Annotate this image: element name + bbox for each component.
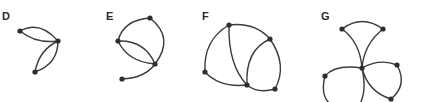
edge [362, 62, 397, 68]
node [244, 82, 249, 87]
panel-e: E [106, 10, 164, 82]
edge [247, 39, 270, 85]
edge [118, 41, 155, 64]
edge [205, 72, 247, 85]
panel-f: F [202, 10, 280, 92]
node [55, 38, 60, 43]
node [226, 22, 231, 27]
edge [35, 41, 58, 72]
edge [122, 64, 155, 79]
edge [118, 18, 150, 41]
panel-g: G [321, 10, 401, 102]
node [32, 69, 37, 74]
edge [325, 67, 362, 76]
panel-label-e: E [106, 10, 113, 22]
node [202, 69, 207, 74]
node [394, 62, 399, 67]
panel-label-d: D [2, 10, 10, 22]
node [388, 96, 393, 101]
node [17, 28, 22, 33]
node [152, 61, 157, 66]
node [322, 73, 327, 78]
edge [342, 29, 362, 68]
node [115, 38, 120, 43]
edge [20, 27, 58, 41]
edge [20, 31, 58, 42]
node [267, 36, 272, 41]
node [147, 15, 152, 20]
graph-figure: D E F G [0, 0, 421, 102]
node [339, 26, 344, 31]
edge [270, 39, 280, 89]
edge [342, 22, 383, 30]
edge [391, 65, 401, 99]
edge [229, 25, 270, 39]
panel-label-f: F [202, 10, 209, 22]
edge [247, 85, 275, 91]
panel-label-g: G [321, 10, 330, 22]
edge [205, 25, 229, 72]
node [119, 76, 124, 81]
edge [229, 25, 247, 85]
node [359, 65, 364, 70]
edge [323, 76, 330, 102]
edge [362, 68, 391, 99]
panel-d: D [2, 10, 61, 75]
node [272, 86, 277, 91]
node [380, 26, 385, 31]
